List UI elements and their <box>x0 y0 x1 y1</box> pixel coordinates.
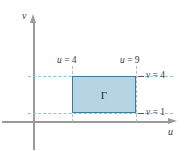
label-v-max: v = 4 <box>146 70 165 80</box>
v-axis-arrow-icon <box>30 14 36 23</box>
uv-plane-figure: v u Γ u = 4 u = 9 v = 4 v = 1 <box>0 0 186 151</box>
guide-line-u-max <box>136 66 137 122</box>
u-axis-line <box>2 121 170 123</box>
label-u-max: u = 9 <box>120 55 140 65</box>
v-axis-line <box>33 22 35 150</box>
label-u-min: u = 4 <box>57 55 77 65</box>
label-v-min: v = 1 <box>146 107 165 117</box>
u-axis-arrow-icon <box>168 118 177 124</box>
v-axis-label: v <box>22 10 26 21</box>
region-rectangle: Γ <box>72 76 136 113</box>
u-axis-label: u <box>168 126 173 137</box>
leader-dash-v-min <box>138 113 144 114</box>
leader-dash-v-max <box>138 76 144 77</box>
region-label: Γ <box>73 88 135 100</box>
